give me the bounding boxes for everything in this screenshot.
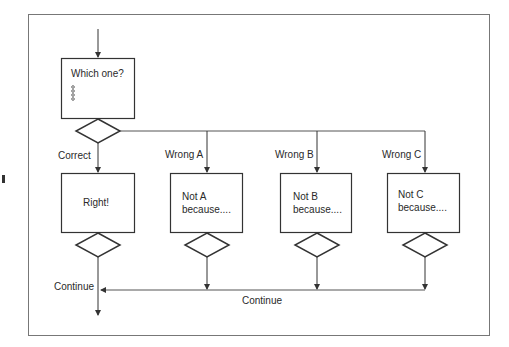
diamond-wrong-b [295,233,339,257]
feedback-text-wrong-c-line2: because.... [398,201,447,214]
continue-label-bottom: Continue [242,295,282,307]
feedback-text-wrong-b-line1: Not B [293,190,318,203]
diamond-wrong-c [403,233,447,257]
diamond-correct [76,233,120,257]
feedback-text-wrong-a-line2: because.... [182,203,231,216]
branch-label-wrong-b: Wrong B [275,149,314,161]
feedback-text-wrong-b-line2: because.... [293,203,342,216]
decision-diamond [76,119,120,143]
question-box-title: Which one? [71,67,124,80]
continue-label-left: Continue [54,281,94,293]
feedback-text-wrong-a-line1: Not A [182,190,206,203]
feedback-text-correct: Right! [83,196,109,209]
diamond-wrong-a [185,233,229,257]
branch-label-correct: Correct [58,150,91,162]
feedback-text-wrong-c-line1: Not C [398,188,424,201]
branch-label-wrong-a: Wrong A [165,149,203,161]
branch-label-wrong-c: Wrong C [382,149,421,161]
